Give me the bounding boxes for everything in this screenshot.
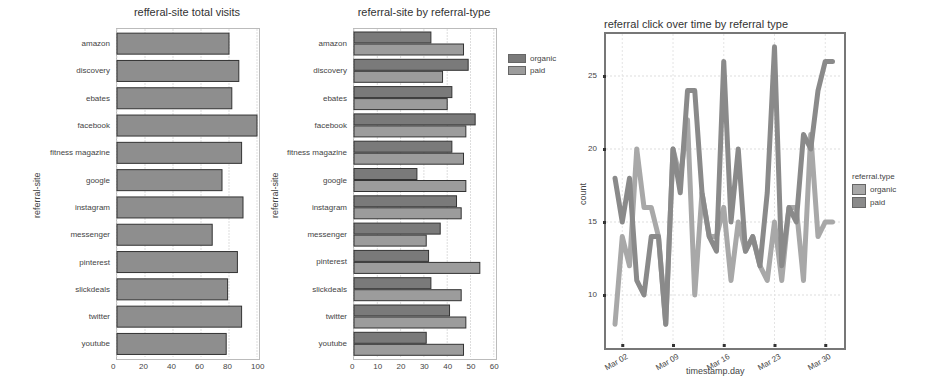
y-tick-label: 15 [588,217,597,226]
chart-over-time: referral click over time by referral typ… [0,0,939,391]
y-tick-label: 20 [588,144,597,153]
y-tick-label: 25 [588,71,597,80]
lines-svg [0,0,939,391]
y-tick-label: 10 [588,290,597,299]
